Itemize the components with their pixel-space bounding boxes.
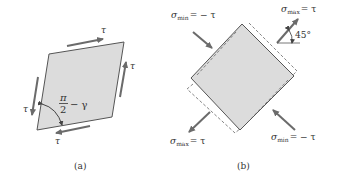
tau-label-right: τ [130, 61, 136, 71]
caption-a: (a) [74, 161, 86, 171]
arrow-sigma-min-top-left [193, 32, 212, 48]
shear-arrow-left [32, 77, 38, 115]
caption-b: (b) [237, 161, 250, 171]
arrow-sigma-max-bottom-left [189, 112, 210, 132]
label-sigma-max-top-right: σmax= τ [281, 4, 316, 15]
shear-arrow-right [120, 62, 126, 97]
panel-b: σmin= − τ σmax= τ 45° σmax= τ σmin= − τ … [170, 4, 316, 171]
panel-a: τ τ τ τ π 2 − γ (a) [23, 25, 136, 171]
label-sigma-max-bottom-left: σmax= τ [170, 136, 205, 147]
shear-arrow-bottom [56, 126, 90, 133]
arrow-sigma-min-bottom-right [273, 110, 295, 130]
shear-arrow-top [67, 39, 103, 46]
angle-45-label: 45° [295, 30, 311, 40]
sheared-element [37, 42, 124, 130]
tau-label-top: τ [101, 25, 107, 35]
tau-label-bottom: τ [55, 136, 61, 146]
angle-denominator: 2 [60, 104, 66, 115]
angle-arc-45 [289, 30, 292, 43]
tau-label-left: τ [23, 104, 29, 114]
angle-numerator: π [59, 92, 67, 103]
stress-diagram: τ τ τ τ π 2 − γ (a) σmin= − τ [0, 0, 338, 183]
label-sigma-min-top-left: σmin= − τ [171, 10, 215, 21]
label-sigma-min-bottom-right: σmin= − τ [271, 132, 315, 143]
angle-suffix: − γ [70, 99, 88, 110]
